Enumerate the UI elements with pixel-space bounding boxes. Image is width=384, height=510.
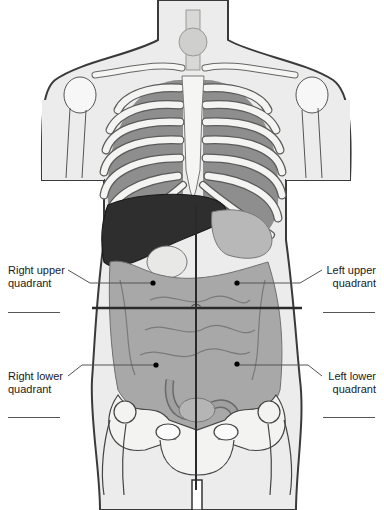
quadrant-diagram: ⌒ Right upper quadrant Left upper quadra…: [0, 0, 384, 510]
label-line: Right lower: [8, 370, 63, 383]
blank-answer-line-right-lower: [8, 417, 60, 418]
blank-answer-line-right-upper: [8, 312, 60, 313]
label-right-upper-quadrant: Right upper quadrant: [8, 264, 65, 290]
label-right-lower-quadrant: Right lower quadrant: [8, 370, 63, 396]
marker-left-upper: [234, 280, 239, 285]
marker-left-lower: [234, 361, 239, 366]
label-line: quadrant: [328, 383, 376, 396]
torso-illustration: ⌒: [0, 0, 384, 510]
label-line: Left upper: [326, 264, 376, 277]
label-line: quadrant: [326, 277, 376, 290]
blank-answer-line-left-lower: [323, 417, 375, 418]
label-line: Left lower: [328, 370, 376, 383]
label-line: Right upper: [8, 264, 65, 277]
label-left-lower-quadrant: Left lower quadrant: [328, 370, 376, 396]
marker-right-upper: [150, 280, 155, 285]
blank-answer-line-left-upper: [323, 312, 375, 313]
label-line: quadrant: [8, 383, 63, 396]
label-line: quadrant: [8, 277, 65, 290]
marker-right-lower: [153, 362, 158, 367]
label-left-upper-quadrant: Left upper quadrant: [326, 264, 376, 290]
umbilicus-icon: ⌒: [191, 304, 201, 315]
